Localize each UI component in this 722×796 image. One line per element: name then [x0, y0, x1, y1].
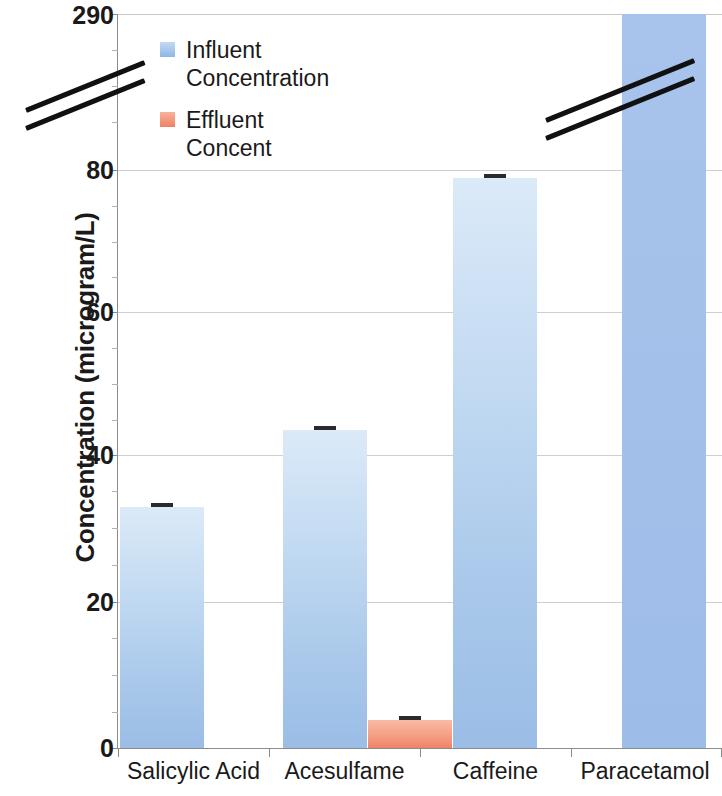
ytick-label-20: 20 — [18, 588, 114, 617]
error-bar-influent-caffeine — [484, 174, 506, 178]
xlabel-caffeine: Caffeine — [420, 758, 571, 785]
bar-influent-caffeine[interactable] — [453, 178, 537, 748]
bar-chart: Concentration (microgram/L) 290 80 60 40… — [0, 0, 722, 796]
ytick-label-80: 80 — [18, 156, 114, 185]
ytick-label-0: 0 — [18, 734, 114, 763]
bar-influent-salicylic-acid[interactable] — [120, 507, 204, 748]
legend-label-influent-line2: Concentration — [186, 64, 329, 92]
ytick-label-60: 60 — [18, 298, 114, 327]
ytick-label-290: 290 — [18, 1, 114, 30]
error-bar-influent-salicylic-acid — [151, 503, 173, 507]
ytick-label-40: 40 — [18, 441, 114, 470]
legend: Influent Concentration Effluent Concent — [160, 36, 329, 168]
error-bar-influent-acesulfame — [314, 426, 336, 430]
legend-label-effluent-line1: Effluent — [186, 106, 329, 134]
influent-swatch-icon — [160, 42, 175, 57]
bar-influent-acesulfame[interactable] — [283, 430, 367, 748]
legend-item-influent[interactable]: Influent Concentration — [160, 36, 329, 92]
legend-item-effluent[interactable]: Effluent Concent — [160, 106, 329, 162]
effluent-swatch-icon — [160, 112, 175, 127]
bar-effluent-acesulfame[interactable] — [368, 720, 452, 748]
xtick-mark — [420, 748, 421, 757]
legend-label-influent-line1: Influent — [186, 36, 329, 64]
xlabel-salicylic-acid: Salicylic Acid — [118, 758, 269, 785]
legend-label-effluent-line2: Concent — [186, 134, 329, 162]
xtick-mark — [269, 748, 270, 757]
error-bar-effluent-acesulfame — [399, 716, 421, 720]
xlabel-acesulfame: Acesulfame — [269, 758, 420, 785]
y-axis-title: Concentration (microgram/L) — [70, 173, 101, 603]
xtick-mark — [118, 748, 119, 757]
xlabel-paracetamol: Paracetamol — [568, 758, 722, 785]
bar-influent-paracetamol[interactable] — [622, 14, 706, 748]
xtick-mark — [571, 748, 572, 757]
